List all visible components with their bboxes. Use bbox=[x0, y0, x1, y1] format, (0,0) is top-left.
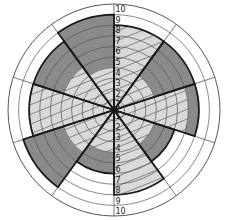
scale-label-up-8: 8 bbox=[116, 26, 121, 35]
scale-label-down-7: 7 bbox=[116, 176, 121, 185]
scale-label-up-2: 2 bbox=[116, 90, 121, 99]
scale-label-down-8: 8 bbox=[116, 186, 121, 195]
scale-label-up-3: 3 bbox=[116, 79, 121, 88]
scale-label-down-5: 5 bbox=[116, 154, 121, 163]
wheel-svg: 1234567891012345678910 bbox=[0, 0, 228, 220]
scale-label-down-1: 1 bbox=[116, 112, 121, 121]
radial-wheel-diagram: 1234567891012345678910 bbox=[0, 0, 228, 220]
scale-label-down-4: 4 bbox=[116, 144, 121, 153]
scale-label-up-1: 1 bbox=[116, 100, 121, 109]
scale-label-up-6: 6 bbox=[116, 47, 121, 56]
scale-label-down-10: 10 bbox=[116, 207, 126, 216]
scale-label-down-6: 6 bbox=[116, 165, 121, 174]
scale-label-down-9: 9 bbox=[116, 197, 121, 206]
scale-label-up-7: 7 bbox=[116, 37, 121, 46]
scale-label-up-4: 4 bbox=[116, 69, 121, 78]
scale-label-up-5: 5 bbox=[116, 58, 121, 67]
scale-label-down-3: 3 bbox=[116, 133, 121, 142]
scale-label-up-10: 10 bbox=[116, 5, 126, 14]
scale-label-down-2: 2 bbox=[116, 123, 121, 132]
scale-label-up-9: 9 bbox=[116, 16, 121, 25]
